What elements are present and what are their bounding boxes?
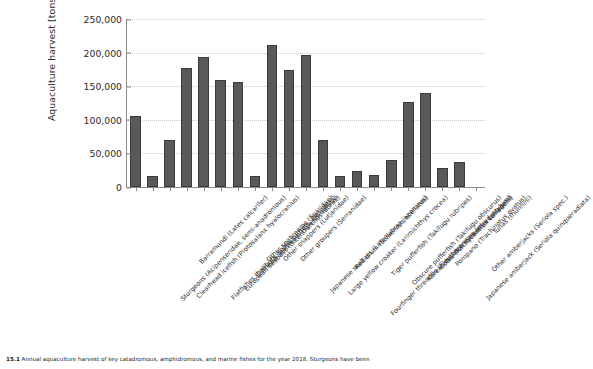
plot-area: 050,000100,000150,000200,000250,000	[127, 19, 485, 187]
bar	[267, 45, 278, 187]
x-axis-label: Red drum (Sciaenops ocellatus)	[353, 194, 430, 271]
bar	[403, 102, 414, 187]
y-axis-tick-label: 250,000	[84, 14, 127, 25]
bar-series	[127, 19, 485, 187]
bar	[335, 176, 346, 187]
bar	[215, 80, 226, 187]
x-axis-label: Sturgeons (Acipenseridae, semi-anadromou…	[178, 194, 287, 303]
bar	[437, 168, 448, 187]
bar	[198, 57, 209, 187]
bar	[233, 82, 244, 187]
bar	[454, 162, 465, 187]
caption-number: 15.1	[6, 356, 20, 362]
bar-chart: Aquaculture harvest [tons] 050,000100,00…	[0, 0, 492, 340]
bar	[352, 171, 363, 187]
bar	[386, 160, 397, 187]
bar	[147, 176, 158, 187]
bar	[369, 175, 380, 187]
y-axis-tick-label: 0	[116, 182, 127, 193]
bar	[164, 140, 175, 187]
bar	[130, 116, 141, 187]
bar	[250, 176, 261, 187]
bar	[318, 140, 329, 187]
x-axis-label: Large yellow croaker (Larimichthys croce…	[347, 194, 450, 297]
bar	[420, 93, 431, 187]
x-axis-labels: Sturgeons (Acipenseridae, semi-anadromou…	[127, 191, 485, 341]
caption-text: Annual aquaculture harvest of key catadr…	[22, 356, 370, 362]
y-axis-tick-label: 200,000	[84, 47, 127, 58]
y-axis-tick-label: 100,000	[84, 114, 127, 125]
bar	[284, 70, 295, 187]
figure-caption: 15.1 Annual aquaculture harvest of key c…	[6, 356, 486, 369]
y-axis-tick-label: 150,000	[84, 81, 127, 92]
y-axis-tick-label: 50,000	[89, 148, 127, 159]
y-axis-title: Aquaculture harvest [tons]	[46, 0, 57, 143]
bar	[181, 68, 192, 187]
bar	[301, 55, 312, 187]
